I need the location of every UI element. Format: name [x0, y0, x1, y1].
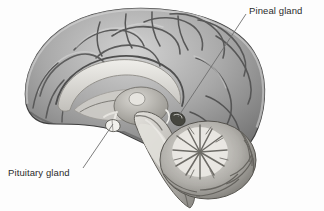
interthalamic-adhesion	[129, 93, 145, 106]
brain-diagram-figure: Pineal gland Pituitary gland	[0, 0, 324, 211]
label-pituitary-gland: Pituitary gland	[8, 167, 70, 178]
label-pineal-gland: Pineal gland	[249, 5, 303, 16]
leader-line-pituitary	[83, 124, 113, 168]
brain-illustration	[0, 0, 324, 211]
